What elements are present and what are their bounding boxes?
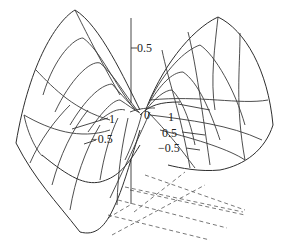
left-tick-one: 1 [109,112,115,126]
z-tick-label: 0.5 [137,41,152,55]
right-tick-neg-half: −0.5 [158,141,180,155]
right-tick-half: 0.5 [162,126,177,140]
saddle-surface-plot: 0.5 0 1 −0.5 1 0.5 −0.5 [0,0,288,248]
base-grid [108,172,245,240]
left-tick-neg-half: −0.5 [91,132,113,146]
origin-label: 0 [144,108,150,122]
right-tick-one: 1 [168,110,174,124]
